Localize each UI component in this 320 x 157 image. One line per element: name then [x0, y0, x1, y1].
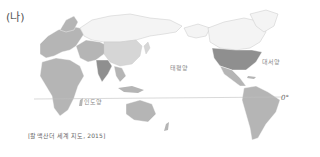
map-source-caption: [칼맥산더 세계 지도, 2015]: [28, 131, 105, 140]
region-alaska: [184, 24, 210, 38]
region-central-asia: [76, 40, 108, 62]
region-indonesia: [118, 86, 144, 93]
region-new-zealand: [164, 122, 169, 131]
region-india: [96, 60, 112, 82]
ocean-label-atlantic: 대서양: [262, 58, 280, 66]
region-japan: [144, 42, 150, 54]
region-africa: [40, 58, 84, 116]
region-caribbean: [247, 76, 256, 79]
region-southeast-asia: [114, 66, 126, 82]
region-china: [104, 40, 142, 66]
region-south-america: [242, 86, 280, 140]
region-australia: [126, 100, 156, 122]
ocean-label-indian: 인도양: [84, 98, 102, 105]
region-madagascar: [79, 98, 83, 106]
equator-label: 0°: [281, 94, 289, 102]
region-usa: [212, 48, 262, 70]
region-russia: [80, 14, 182, 42]
ocean-label-pacific: 태평양: [170, 64, 188, 72]
